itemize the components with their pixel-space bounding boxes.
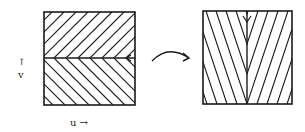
transform-arrow-icon bbox=[152, 52, 189, 61]
left-bottom-hatching bbox=[6, 58, 173, 105]
right-left-hatching bbox=[166, 11, 277, 104]
diagram-canvas bbox=[0, 0, 305, 132]
v-axis-label: v bbox=[18, 70, 24, 80]
left-square bbox=[6, 12, 173, 105]
right-square bbox=[166, 11, 305, 104]
u-axis-label: u → bbox=[70, 118, 88, 128]
left-top-hatching bbox=[6, 12, 172, 58]
v-axis-arrow: ↑ bbox=[18, 58, 26, 67]
